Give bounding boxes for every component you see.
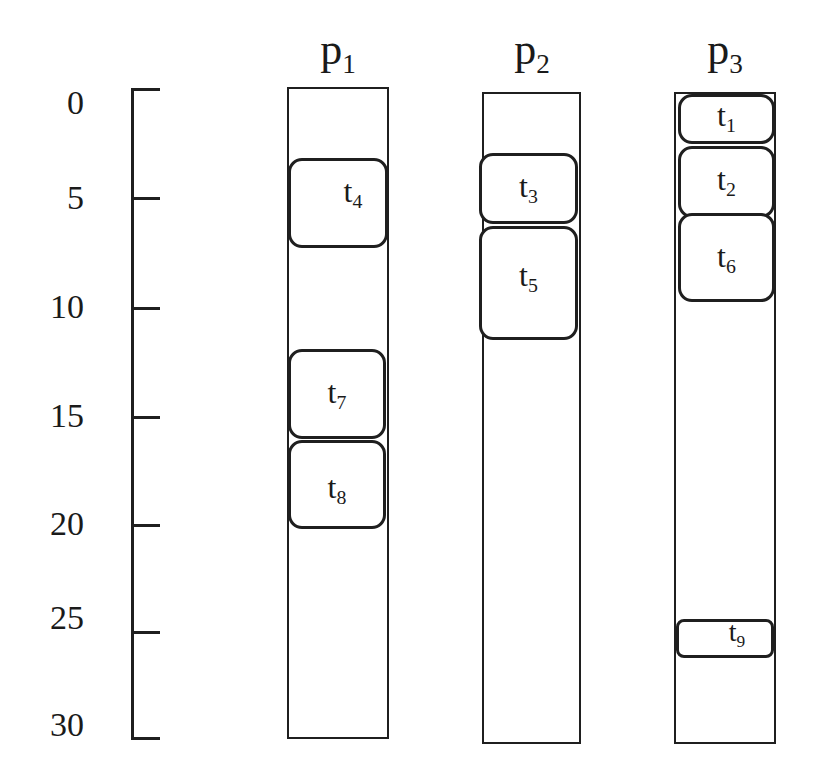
axis-tick-label: 20 (4, 507, 84, 541)
task-label: t1 (717, 99, 736, 135)
time-axis-line (131, 88, 134, 740)
task-t6: t6 (678, 213, 775, 302)
task-label: t3 (519, 170, 538, 206)
schedule-diagram: 0 5 10 15 20 25 30 p1 p2 p3 t4 t7 t8 t3 … (0, 0, 817, 772)
task-label: t7 (328, 376, 347, 412)
task-t7: t7 (288, 349, 386, 439)
processor-label-base: p (514, 25, 536, 74)
axis-tick-label: 25 (4, 601, 84, 635)
task-label: t6 (717, 240, 736, 276)
task-label: t2 (717, 163, 736, 199)
task-t8: t8 (288, 440, 386, 529)
task-label: t9 (729, 618, 745, 650)
processor-label-p1: p1 (288, 28, 388, 77)
processor-label-sub: 3 (729, 49, 743, 79)
task-label: t8 (328, 471, 347, 507)
processor-label-base: p (707, 25, 729, 74)
axis-tick-label: 30 (4, 708, 84, 742)
axis-tick-5 (131, 197, 160, 200)
axis-tick-20 (131, 524, 160, 527)
task-t9: t9 (676, 619, 774, 658)
task-label: t5 (519, 259, 538, 295)
axis-tick-label: 0 (4, 86, 84, 120)
task-label: t4 (344, 175, 363, 211)
task-t1: t1 (678, 94, 775, 144)
axis-tick-label: 10 (4, 290, 84, 324)
axis-tick-0 (131, 88, 160, 91)
axis-tick-30 (131, 737, 160, 740)
axis-tick-15 (131, 416, 160, 419)
task-t5: t5 (479, 226, 578, 340)
axis-tick-10 (131, 307, 160, 310)
task-t4: t4 (288, 158, 388, 248)
axis-tick-label: 15 (4, 399, 84, 433)
processor-label-sub: 2 (536, 49, 550, 79)
task-t3: t3 (479, 153, 578, 224)
processor-label-sub: 1 (342, 49, 356, 79)
processor-label-base: p (320, 25, 342, 74)
task-t2: t2 (678, 146, 775, 218)
processor-label-p2: p2 (482, 28, 582, 77)
axis-tick-25 (131, 631, 160, 634)
processor-label-p3: p3 (675, 28, 775, 77)
axis-tick-label: 5 (4, 181, 84, 215)
